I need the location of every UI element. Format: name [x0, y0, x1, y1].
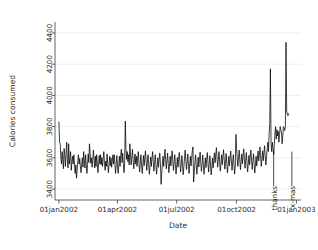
y-tick-label: 4200	[45, 55, 54, 74]
chart-figure: 340036003800400042004400 01jan200201apr2…	[0, 0, 318, 250]
y-tick-label: 4400	[45, 23, 54, 42]
x-tick-label: 01jul2002	[159, 205, 195, 214]
x-tick-label: 01oct2002	[217, 205, 256, 214]
plot-area-background	[55, 22, 301, 200]
calories-time-series-chart: 340036003800400042004400 01jan200201apr2…	[0, 0, 318, 250]
annotation-label-xmas: x-mas	[288, 186, 297, 208]
annotation-label-thanks: thanks	[270, 186, 279, 210]
y-tick-label: 3600	[45, 148, 54, 167]
y-tick-label: 4000	[45, 86, 54, 105]
x-axis-title: Date	[169, 221, 187, 230]
x-tick-label: 01apr2002	[98, 205, 137, 214]
y-axis-title: Calories consumed	[8, 75, 17, 147]
y-tick-label: 3400	[45, 179, 54, 198]
y-tick-label: 3800	[45, 117, 54, 136]
x-tick-label: 01jan2002	[40, 205, 78, 214]
